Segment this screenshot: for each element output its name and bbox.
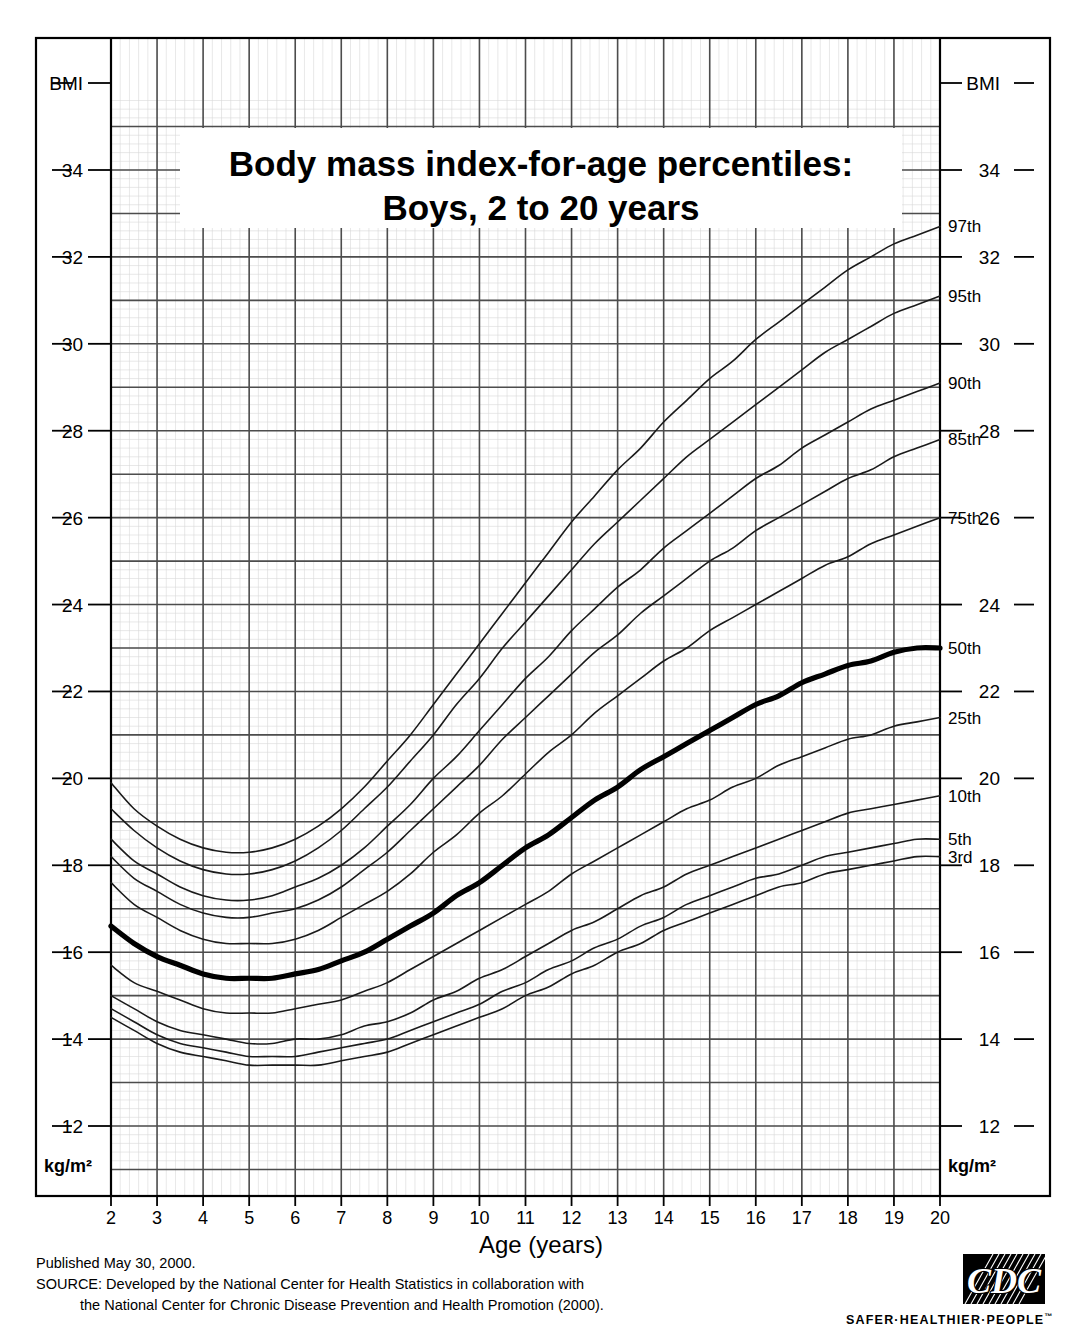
x-tick-label: 7 <box>336 1208 346 1228</box>
source-line-1: SOURCE: Developed by the National Center… <box>36 1274 604 1295</box>
x-tick-label: 14 <box>654 1208 674 1228</box>
x-tick-label: 17 <box>792 1208 812 1228</box>
x-tick-label: 4 <box>198 1208 208 1228</box>
y-tick-label-right: 34 <box>979 160 1001 181</box>
y-tick-label-left: 14 <box>62 1029 84 1050</box>
x-tick-label: 8 <box>382 1208 392 1228</box>
y-tick-label-left: 22 <box>62 681 83 702</box>
y-tick-label-right: 26 <box>979 508 1000 529</box>
bmi-unit-label-right: kg/m² <box>948 1156 996 1176</box>
y-tick-label-right: 12 <box>979 1116 1000 1137</box>
page-title-line2: Boys, 2 to 20 years <box>382 188 699 227</box>
cdc-trademark: ™ <box>1044 1312 1052 1321</box>
y-tick-label-right: 30 <box>979 334 1000 355</box>
x-tick-label: 20 <box>930 1208 950 1228</box>
x-tick-label: 13 <box>608 1208 628 1228</box>
y-tick-label-right: 20 <box>979 768 1000 789</box>
percentile-label-3rd: 3rd <box>948 848 973 867</box>
svg-text:CDC: CDC <box>967 1261 1042 1301</box>
y-tick-label-left: 16 <box>62 942 83 963</box>
bmi-unit-label-left: kg/m² <box>44 1156 92 1176</box>
x-tick-label: 5 <box>244 1208 254 1228</box>
x-tick-label: 10 <box>469 1208 489 1228</box>
y-tick-label-right: 32 <box>979 247 1000 268</box>
x-tick-label: 9 <box>428 1208 438 1228</box>
y-tick-label-left: 20 <box>62 768 83 789</box>
bmi-growth-chart: 121416182022242628303234BMIkg/m² 1214161… <box>0 0 1086 1341</box>
y-tick-label-left: 26 <box>62 508 83 529</box>
percentile-label-97th: 97th <box>948 217 981 236</box>
y-tick-label-right: 28 <box>979 421 1000 442</box>
y-tick-label-left: 28 <box>62 421 83 442</box>
y-tick-label-right: 24 <box>979 595 1001 616</box>
bmi-axis-header-left: BMI <box>49 73 83 94</box>
x-tick-label: 19 <box>884 1208 904 1228</box>
percentile-label-50th: 50th <box>948 639 981 658</box>
y-tick-label-left: 18 <box>62 855 83 876</box>
x-tick-label: 2 <box>106 1208 116 1228</box>
x-tick-label: 15 <box>700 1208 720 1228</box>
y-tick-label-left: 30 <box>62 334 83 355</box>
percentile-label-75th: 75th <box>948 509 981 528</box>
percentile-label-5th: 5th <box>948 830 972 849</box>
y-tick-label-left: 32 <box>62 247 83 268</box>
page-title-line1: Body mass index-for-age percentiles: <box>229 144 853 183</box>
title-block: Body mass index-for-age percentiles: Boy… <box>180 128 902 228</box>
y-tick-label-right: 16 <box>979 942 1000 963</box>
x-tick-label: 18 <box>838 1208 858 1228</box>
bmi-axis-header-right: BMI <box>966 73 1000 94</box>
chart-canvas: 121416182022242628303234BMIkg/m² 1214161… <box>0 0 1086 1341</box>
percentile-label-90th: 90th <box>948 374 981 393</box>
published-date: Published May 30, 2000. <box>36 1253 604 1274</box>
cdc-tagline: SAFER·HEALTHIER·PEOPLE™ <box>846 1312 1052 1327</box>
y-tick-label-left: 34 <box>62 160 84 181</box>
x-tick-label: 6 <box>290 1208 300 1228</box>
percentile-label-95th: 95th <box>948 287 981 306</box>
percentile-label-85th: 85th <box>948 430 981 449</box>
y-tick-label-left: 12 <box>62 1116 83 1137</box>
y-tick-label-right: 22 <box>979 681 1000 702</box>
percentile-label-25th: 25th <box>948 709 981 728</box>
x-tick-label: 16 <box>746 1208 766 1228</box>
y-tick-label-left: 24 <box>62 595 84 616</box>
y-tick-label-right: 14 <box>979 1029 1001 1050</box>
percentile-label-10th: 10th <box>948 787 981 806</box>
x-tick-label: 12 <box>562 1208 582 1228</box>
source-line-2: the National Center for Chronic Disease … <box>36 1295 604 1316</box>
x-tick-label: 3 <box>152 1208 162 1228</box>
cdc-logo-icon: CDC <box>963 1254 1045 1304</box>
y-tick-label-right: 18 <box>979 855 1000 876</box>
x-tick-label: 11 <box>516 1208 535 1228</box>
cdc-tagline-text: SAFER·HEALTHIER·PEOPLE <box>846 1313 1044 1327</box>
footer-notes: Published May 30, 2000. SOURCE: Develope… <box>36 1253 604 1316</box>
